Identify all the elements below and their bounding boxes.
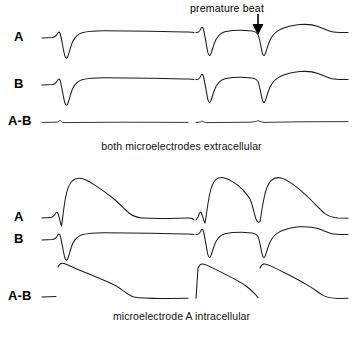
trace-b-intracellular: [42, 227, 348, 260]
trace-a-minus-b-intracellular: [42, 263, 348, 298]
trace-a-minus-b-extracellular: [42, 120, 348, 122]
trace-a-intracellular: [42, 177, 348, 226]
trace-a-extracellular: [42, 24, 348, 58]
caption-intracellular: microelectrode A intracellular: [0, 310, 363, 322]
traces-extracellular: [0, 0, 363, 140]
panel-extracellular: premature beat A B A-B both microelectro…: [0, 0, 363, 162]
electrophysiology-figure: premature beat A B A-B both microelectro…: [0, 0, 363, 347]
caption-extracellular: both microelectrodes extracellular: [0, 140, 363, 152]
panel-intracellular: A B A-B microelectrode A intracellular: [0, 168, 363, 347]
traces-intracellular: [0, 168, 363, 318]
page-text-bleed: [0, 341, 363, 347]
trace-b-extracellular: [42, 71, 348, 105]
